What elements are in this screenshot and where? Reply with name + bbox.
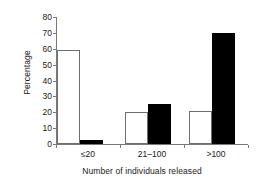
x-axis-tick-label: ≤20 [56,148,120,160]
bar-filled-3 [212,33,235,144]
y-axis-tick-label: 10 [26,124,52,132]
bar-chart-figure: Percentage 01020304050607080 ≤2021–100>1… [0,0,262,186]
bar-open-2 [125,112,148,144]
y-axis-tick-label: 0 [26,140,52,148]
y-axis-tick-label: 80 [26,13,52,21]
x-axis-tick-mark [248,145,249,148]
x-axis-line [56,144,248,145]
y-axis-tick-mark [53,49,56,50]
y-axis-tick-mark [53,17,56,18]
y-axis-tick-mark [53,81,56,82]
x-axis-tick-label: >100 [184,148,248,160]
y-axis-tick-mark [53,33,56,34]
y-axis-tick-mark [53,128,56,129]
bar-filled-2 [148,104,171,144]
bar-open-1 [57,50,80,144]
plot-area [56,17,248,144]
y-axis-tick-label: 60 [26,45,52,53]
y-axis-tick-label: 20 [26,108,52,116]
bar-filled-1 [80,140,103,144]
x-axis-tick-labels: ≤2021–100>100 [56,148,248,162]
y-axis-tick-mark [53,65,56,66]
y-axis-tick-label: 30 [26,92,52,100]
y-axis-tick-labels: 01020304050607080 [26,14,52,145]
y-axis-tick-label: 70 [26,29,52,37]
x-axis-tick-label: 21–100 [120,148,184,160]
y-axis-tick-label: 40 [26,77,52,85]
y-axis-tick-mark [53,96,56,97]
y-axis-tick-mark [53,112,56,113]
y-axis-tick-label: 50 [26,61,52,69]
x-axis-title: Number of individuals released [36,166,248,176]
bar-open-3 [189,111,212,144]
